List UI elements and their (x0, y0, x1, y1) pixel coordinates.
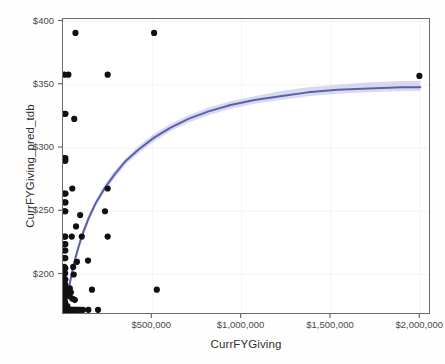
data-point (85, 258, 91, 264)
data-point (72, 30, 78, 36)
x-axis-title: CurrFYGiving (62, 337, 430, 351)
y-tick-label: $250 (20, 205, 54, 215)
data-point (151, 30, 157, 36)
data-point (105, 72, 111, 78)
data-point (69, 233, 75, 239)
data-point (416, 73, 422, 79)
data-point (102, 208, 108, 214)
data-point (105, 233, 111, 239)
data-point (79, 233, 85, 239)
gridlines (63, 19, 430, 314)
data-point (95, 307, 101, 313)
data-point (77, 212, 83, 218)
data-point (72, 297, 78, 303)
data-point (70, 264, 76, 270)
data-point (85, 307, 91, 313)
x-axis-tick-labels: $500,000$1,000,000$1,500,000$2,000,000 (0, 320, 445, 334)
data-point (71, 116, 77, 122)
y-axis-tick-labels: $200$250$300$350$400 (18, 0, 54, 364)
data-point (80, 307, 86, 313)
data-point (73, 223, 79, 229)
y-tick-label: $300 (20, 142, 54, 152)
data-point (71, 271, 77, 277)
trend-line (66, 87, 421, 310)
x-tick-label: $2,000,000 (396, 320, 444, 330)
y-tick-label: $350 (20, 79, 54, 89)
data-point (89, 287, 95, 293)
data-point (105, 185, 111, 191)
y-tick-label: $200 (20, 269, 54, 279)
scatter-plot-figure: CurrFYGiving_pred_tdb $200$250$300$350$4… (0, 0, 445, 364)
y-tick-label: $400 (20, 16, 54, 26)
data-point (69, 185, 75, 191)
plot-canvas (63, 19, 430, 314)
plot-area (62, 18, 430, 314)
x-tick-label: $1,500,000 (306, 320, 354, 330)
x-tick-label: $500,000 (131, 320, 171, 330)
confidence-band (66, 81, 421, 314)
data-point (154, 287, 160, 293)
data-point (74, 259, 80, 265)
x-tick-label: $1,000,000 (217, 320, 265, 330)
